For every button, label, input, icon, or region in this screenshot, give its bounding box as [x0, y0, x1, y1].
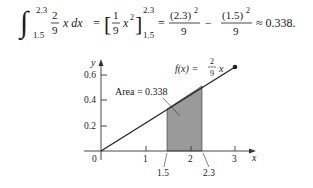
callout-label-1.5: 1.5 [157, 168, 169, 178]
y-tick-label-0.2: 0.2 [84, 121, 96, 131]
area-label: Area = 0.338 [115, 86, 168, 97]
area-figure: y x 0.6 0.4 0.2 0 1 2 3 1.5 2.3 Area = 0… [0, 0, 313, 188]
x-tick-label-3: 3 [232, 154, 237, 164]
origin-label: 0 [92, 154, 97, 164]
y-tick-label-0.6: 0.6 [84, 70, 96, 80]
y-axis-arrow-icon [99, 59, 104, 66]
y-axis-label: y [90, 57, 96, 68]
x-tick-label-2: 2 [188, 154, 193, 164]
endpoint-dot [233, 65, 238, 70]
function-label-numerator: 2 [210, 57, 214, 66]
function-label-denominator: 9 [210, 69, 214, 78]
callout-line-1.5 [164, 153, 167, 167]
function-label-prefix: f(x) = [175, 63, 198, 75]
callout-line-2.3 [203, 153, 209, 167]
y-tick-label-0.4: 0.4 [84, 95, 96, 105]
function-label-variable: x [218, 63, 224, 74]
shaded-area [167, 86, 202, 151]
callout-label-2.3: 2.3 [203, 168, 215, 178]
x-tick-label-1: 1 [143, 154, 148, 164]
x-axis-label: x [251, 152, 257, 163]
